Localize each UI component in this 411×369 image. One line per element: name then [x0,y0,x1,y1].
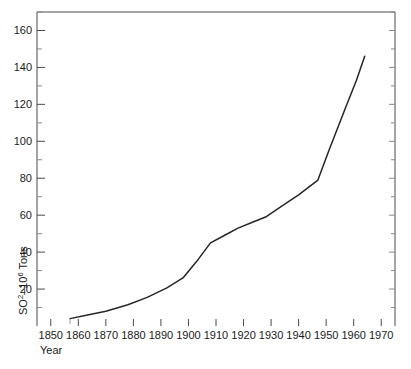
so2-emissions-line-chart: 1850186018701880189019001910192019301940… [0,0,411,369]
x-tick-label: 1880 [121,329,145,341]
y-axis-title-tail: Tons [17,246,29,273]
y-axis-title-mid: –10 [17,277,29,295]
x-tick-label: 1940 [286,329,310,341]
y-axis-title-base: SO [17,299,29,315]
x-tick-label: 1870 [94,329,118,341]
x-tick-label: 1950 [314,329,338,341]
x-tick-label: 1920 [231,329,255,341]
y-tick-label: 140 [14,61,32,73]
x-tick-label: 1860 [66,329,90,341]
y-tick-label: 80 [20,172,32,184]
y-axis-title: SO2–106 Tons [16,246,29,315]
y-tick-label: 160 [14,24,32,36]
y-tick-label: 60 [20,209,32,221]
svg-text:SO2–106 Tons: SO2–106 Tons [16,246,29,315]
chart-background [0,0,411,369]
x-tick-label: 1900 [176,329,200,341]
y-tick-label: 100 [14,135,32,147]
y-tick-label: 120 [14,98,32,110]
x-tick-label: 1960 [341,329,365,341]
x-tick-label: 1930 [259,329,283,341]
x-tick-label: 1910 [204,329,228,341]
x-tick-label: 1890 [149,329,173,341]
x-tick-label: 1850 [39,329,63,341]
x-axis-title: Year [40,344,63,356]
chart-container: 1850186018701880189019001910192019301940… [0,0,411,369]
x-tick-label: 1970 [369,329,393,341]
